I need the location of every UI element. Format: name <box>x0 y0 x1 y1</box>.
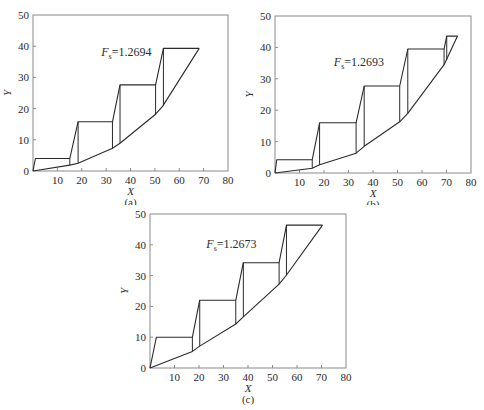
chart-c: 010203040501020304050607080XY(c)Fs=1.267… <box>120 200 360 410</box>
y-tick-label: 0 <box>24 165 30 177</box>
y-tick-label: 10 <box>260 136 272 148</box>
plot-frame <box>33 15 228 171</box>
safety-factor-annotation: Fs=1.2673 <box>205 237 256 253</box>
x-tick-label: 70 <box>441 176 453 188</box>
x-tick-label: 10 <box>52 174 64 186</box>
y-tick-label: 50 <box>18 9 30 21</box>
x-tick-label: 30 <box>343 176 355 188</box>
y-axis-label: Y <box>1 88 13 96</box>
x-tick-label: 60 <box>174 174 186 186</box>
x-tick-label: 50 <box>392 176 404 188</box>
x-tick-label: 60 <box>417 176 429 188</box>
x-tick-label: 10 <box>169 371 181 383</box>
x-tick-label: 20 <box>194 371 206 383</box>
slice-tops-line <box>33 48 199 171</box>
safety-factor-annotation: Fs=1.2693 <box>333 55 384 71</box>
x-tick-label: 50 <box>267 371 279 383</box>
y-tick-label: 10 <box>18 134 30 146</box>
y-axis-label: Y <box>243 90 255 98</box>
y-tick-label: 30 <box>18 71 30 83</box>
x-tick-label: 20 <box>76 174 88 186</box>
x-tick-label: 70 <box>198 174 210 186</box>
panel-caption: (c) <box>242 393 255 406</box>
y-tick-label: 20 <box>135 300 147 312</box>
y-tick-label: 0 <box>266 167 272 179</box>
x-tick-label: 80 <box>223 174 235 186</box>
x-tick-label: 80 <box>341 371 353 383</box>
y-tick-label: 20 <box>260 104 272 116</box>
chart-panel-b: 010203040501020304050607080XY(b)Fs=1.269… <box>240 0 484 205</box>
x-tick-label: 60 <box>292 371 304 383</box>
y-tick-label: 40 <box>260 41 272 53</box>
y-tick-label: 10 <box>135 331 147 343</box>
x-tick-label: 30 <box>101 174 113 186</box>
y-tick-label: 40 <box>18 40 30 52</box>
x-tick-label: 30 <box>218 371 230 383</box>
panel-caption: (b) <box>367 198 380 205</box>
slip-surface-line <box>33 48 199 171</box>
y-tick-label: 50 <box>135 208 147 220</box>
y-tick-label: 30 <box>260 73 272 85</box>
y-tick-label: 40 <box>135 239 147 251</box>
chart-b: 010203040501020304050607080XY(b)Fs=1.269… <box>240 0 484 205</box>
y-tick-label: 20 <box>18 103 30 115</box>
y-tick-label: 30 <box>135 270 147 282</box>
x-tick-label: 70 <box>316 371 328 383</box>
x-tick-label: 20 <box>319 176 331 188</box>
y-axis-label: Y <box>120 286 130 294</box>
safety-factor-annotation: Fs=1.2694 <box>100 45 151 61</box>
y-tick-label: 0 <box>141 362 147 374</box>
chart-a: 010203040501020304050607080XY(a)Fs=1.269… <box>0 0 240 205</box>
chart-panel-c: 010203040501020304050607080XY(c)Fs=1.267… <box>120 200 360 410</box>
x-tick-label: 10 <box>294 176 306 188</box>
plot-frame <box>275 16 471 173</box>
x-tick-label: 50 <box>149 174 161 186</box>
x-tick-label: 80 <box>466 176 478 188</box>
chart-panel-a: 010203040501020304050607080XY(a)Fs=1.269… <box>0 0 240 205</box>
y-tick-label: 50 <box>260 10 272 22</box>
